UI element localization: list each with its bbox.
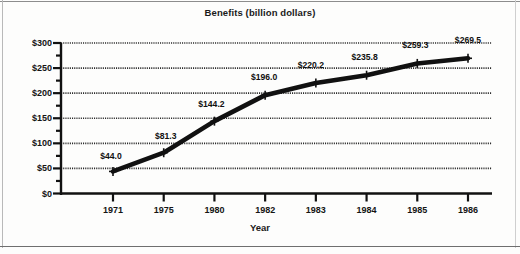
x-axis-title: Year bbox=[0, 222, 520, 233]
data-point-label: $235.8 bbox=[351, 52, 377, 62]
data-point-label: $196.0 bbox=[251, 72, 277, 82]
data-point-marker bbox=[363, 71, 371, 80]
data-point-markers-group bbox=[109, 54, 472, 176]
x-tick-label: 1985 bbox=[407, 205, 427, 215]
x-tick-label: 1984 bbox=[357, 205, 377, 215]
data-point-marker bbox=[312, 79, 320, 88]
y-tick-label: $0 bbox=[8, 189, 52, 199]
data-point-label: $144.2 bbox=[198, 99, 224, 109]
data-point-label: $220.2 bbox=[298, 60, 324, 70]
data-point-label: $81.3 bbox=[155, 131, 177, 141]
y-tick-label: $100 bbox=[8, 138, 52, 148]
plot-area bbox=[0, 0, 520, 254]
x-tick-label: 1983 bbox=[306, 205, 326, 215]
data-series-line bbox=[113, 58, 468, 171]
y-tick-label: $250 bbox=[8, 63, 52, 73]
chart-figure: Benefits (billion dollars) $0$50$100$150… bbox=[0, 0, 520, 254]
x-tick-label: 1980 bbox=[204, 205, 224, 215]
data-point-label: $259.3 bbox=[402, 40, 428, 50]
y-tick-label: $300 bbox=[8, 38, 52, 48]
x-tick-label: 1975 bbox=[154, 205, 174, 215]
data-point-label: $44.0 bbox=[100, 151, 122, 161]
y-tick-label: $150 bbox=[8, 113, 52, 123]
x-tick-label: 1986 bbox=[458, 205, 478, 215]
y-tick-label: $50 bbox=[8, 163, 52, 173]
data-point-marker bbox=[464, 54, 472, 63]
x-tick-label: 1971 bbox=[103, 205, 123, 215]
x-tick-label: 1982 bbox=[255, 205, 275, 215]
y-tick-label: $200 bbox=[8, 88, 52, 98]
data-point-marker bbox=[413, 59, 421, 68]
data-point-label: $269.5 bbox=[455, 35, 481, 45]
